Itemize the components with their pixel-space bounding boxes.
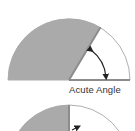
right-angle-diagram [8, 105, 130, 131]
shaded-sector [8, 105, 69, 131]
angle-diagrams [0, 0, 135, 131]
acute-angle-label: Acute Angle [69, 84, 121, 95]
acute-angle-diagram [8, 18, 130, 80]
